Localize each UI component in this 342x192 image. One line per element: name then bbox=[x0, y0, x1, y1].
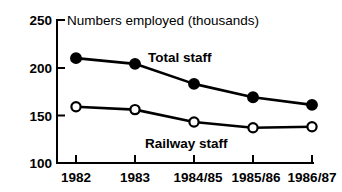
x-axis-label-1984-85: 1984/85 bbox=[174, 170, 223, 185]
data-point bbox=[307, 122, 316, 131]
data-point bbox=[248, 92, 258, 102]
y-axis-label-100: 100 bbox=[29, 156, 52, 171]
x-axis-label-1983: 1983 bbox=[120, 170, 151, 185]
x-axis-label-1986-87: 1986/87 bbox=[288, 170, 337, 185]
data-point bbox=[189, 117, 198, 126]
data-point bbox=[248, 123, 257, 132]
data-point bbox=[71, 53, 81, 63]
data-point bbox=[71, 102, 80, 111]
series-annotation-railway-staff: Railway staff bbox=[145, 136, 228, 151]
line-chart: 250 200 150 100 1982 1983 1984/85 1985/8… bbox=[0, 0, 342, 192]
x-axis-label-1982: 1982 bbox=[61, 170, 91, 185]
data-point bbox=[189, 79, 199, 89]
x-axis-label-1985-86: 1985/86 bbox=[232, 170, 281, 185]
data-point bbox=[130, 105, 139, 114]
chart-title: Numbers employed (thousands) bbox=[67, 13, 259, 28]
y-axis-label-150: 150 bbox=[29, 109, 52, 124]
series-annotation-total-staff: Total staff bbox=[148, 50, 212, 65]
data-point bbox=[130, 59, 140, 69]
y-axis-label-200: 200 bbox=[29, 61, 52, 76]
series-railway-staff bbox=[71, 102, 316, 132]
y-axis-label-250: 250 bbox=[29, 13, 52, 28]
chart-container: 250 200 150 100 1982 1983 1984/85 1985/8… bbox=[0, 0, 342, 192]
data-point bbox=[307, 100, 317, 110]
